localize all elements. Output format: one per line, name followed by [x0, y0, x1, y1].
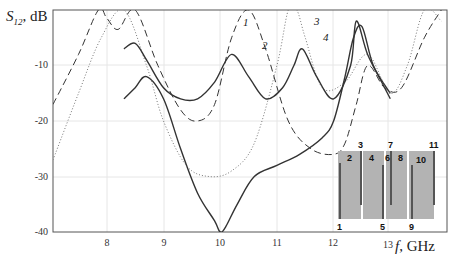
inset-label: 7: [388, 140, 393, 150]
curve-3: [53, 5, 441, 177]
y-tick-label: -10: [18, 59, 48, 70]
inset-label: 10: [416, 155, 426, 165]
inset-label: 3: [358, 140, 363, 150]
y-tick-label: -20: [18, 115, 48, 126]
y-tick-label: -30: [18, 171, 48, 182]
x-axis-label: f, GHz: [395, 238, 435, 255]
inset-label: 6: [385, 153, 390, 163]
x-tick-label: 9: [154, 237, 174, 248]
curve-label-4: 4: [323, 31, 329, 43]
curve-label-1: 1: [243, 16, 249, 28]
y-tick-label: -40: [18, 226, 48, 237]
x-tick-label: 11: [267, 237, 287, 248]
inset-label: 2: [347, 153, 352, 163]
inset-label: 5: [380, 222, 385, 232]
x-tick-label: 8: [97, 237, 117, 248]
inset-label: 11: [429, 140, 439, 150]
x-tick-label: 13: [378, 239, 398, 250]
inset-label: 8: [398, 153, 403, 163]
y-axis-label: S12, dB: [6, 8, 48, 27]
curve-label-2: 2: [262, 39, 268, 51]
chart-canvas: [0, 0, 459, 263]
x-tick-label: 10: [210, 237, 230, 248]
curve-label-3: 3: [314, 15, 320, 27]
x-tick-label: 12: [323, 237, 343, 248]
inset-label: 4: [369, 153, 374, 163]
inset-label: 1: [337, 222, 342, 232]
inset-label: 9: [409, 222, 414, 232]
